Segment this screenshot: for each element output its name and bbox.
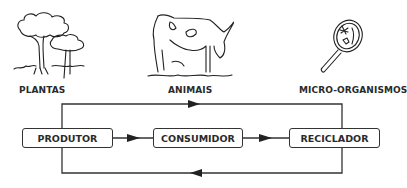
arrowhead-top-right [188,100,200,108]
arrowhead-consumidor-reciclador [259,134,272,142]
node-consumidor: CONSUMIDOR [153,128,243,148]
node-produtor: PRODUTOR [22,128,113,148]
arrowhead-produtor-consumidor [127,134,140,142]
arrowhead-bottom-left [190,169,202,177]
node-reciclador: RECICLADOR [289,128,380,148]
